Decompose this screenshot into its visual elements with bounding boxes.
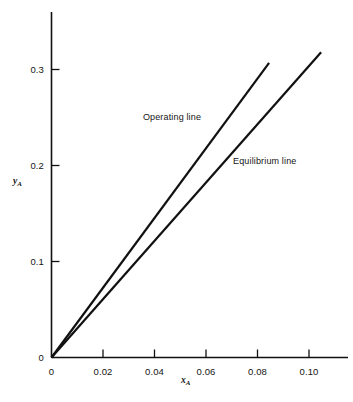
y-axis-title: yA (13, 176, 22, 188)
x-axis-title: xA (181, 375, 190, 387)
data-series-group (52, 52, 322, 357)
series-line-equilibrium-line (52, 52, 322, 357)
series-line-operating-line (52, 63, 270, 358)
y-axis-tick-marks (52, 70, 60, 262)
y-axis-tick-label: 0.3 (10, 64, 44, 75)
figure-container: 00.10.20.3 00.020.040.060.080.10 yA xA O… (0, 0, 353, 402)
x-axis-tick-marks (103, 350, 309, 358)
x-axis-tick-label: 0.08 (236, 366, 280, 377)
x-axis-title-subscript: A (186, 379, 191, 387)
y-axis-title-subscript: A (17, 180, 22, 188)
chart-plot-area (0, 0, 353, 402)
y-axis-tick-label: 0.1 (10, 256, 44, 267)
x-axis-tick-label: 0.10 (287, 366, 331, 377)
y-axis-tick-label: 0.2 (10, 160, 44, 171)
series-annotation-label: Operating line (143, 112, 201, 122)
x-axis-tick-label: 0 (30, 366, 74, 377)
x-axis-tick-label: 0.06 (184, 366, 228, 377)
x-axis-tick-label: 0.02 (81, 366, 125, 377)
x-axis-tick-label: 0.04 (133, 366, 177, 377)
series-annotation-label: Equilibrium line (233, 156, 296, 166)
y-axis-tick-label: 0 (10, 352, 44, 363)
